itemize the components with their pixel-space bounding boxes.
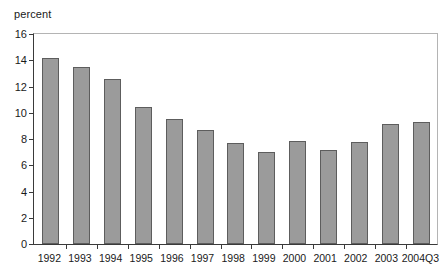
x-tick-mark: [313, 244, 314, 249]
bar: [382, 124, 399, 244]
bar: [413, 122, 430, 244]
bar-slot: [97, 34, 128, 244]
x-tick-label: 1996: [157, 252, 188, 264]
bar-slot: [221, 34, 252, 244]
bar: [227, 143, 244, 244]
x-tick-label: 1998: [218, 252, 249, 264]
y-tick-mark: [29, 244, 34, 245]
bar-slot: [313, 34, 344, 244]
bar: [197, 130, 214, 244]
x-tick-mark: [406, 244, 407, 249]
x-tick-mark: [221, 244, 222, 249]
y-axis-title: percent: [14, 8, 51, 21]
x-tick-mark: [128, 244, 129, 249]
bar: [73, 67, 90, 244]
x-tick-mark: [344, 244, 345, 249]
x-axis-labels: 1992199319941995199619971998199920002001…: [34, 252, 439, 264]
bar: [104, 79, 121, 244]
x-tick-label: 2002: [340, 252, 371, 264]
x-tick-label: 1999: [248, 252, 279, 264]
y-tick-mark: [29, 165, 34, 166]
x-tick-label: 2001: [310, 252, 341, 264]
bar: [258, 152, 275, 244]
bars-container: [35, 34, 437, 244]
bar: [135, 107, 152, 244]
bar: [351, 142, 368, 244]
bar: [289, 141, 306, 244]
x-tick-label: 1992: [34, 252, 65, 264]
y-tick-mark: [29, 218, 34, 219]
y-tick-mark: [29, 87, 34, 88]
bar: [42, 58, 59, 244]
x-tick-mark: [375, 244, 376, 249]
bar-slot: [128, 34, 159, 244]
bar-slot: [35, 34, 66, 244]
bar-slot: [159, 34, 190, 244]
x-tick-label: 1997: [187, 252, 218, 264]
bar-slot: [406, 34, 437, 244]
x-tick-label: 1993: [65, 252, 96, 264]
x-tick-mark: [251, 244, 252, 249]
bar-slot: [190, 34, 221, 244]
x-tick-label: 2004Q3: [402, 252, 439, 264]
y-tick-mark: [29, 60, 34, 61]
x-tick-label: 2003: [371, 252, 402, 264]
bar-slot: [66, 34, 97, 244]
x-tick-mark: [282, 244, 283, 249]
bar-slot: [282, 34, 313, 244]
y-tick-mark: [29, 139, 34, 140]
x-tick-mark: [97, 244, 98, 249]
plot-area: 1614121086420: [33, 33, 438, 245]
bar: [320, 150, 337, 244]
bar-slot: [344, 34, 375, 244]
bar-slot: [251, 34, 282, 244]
y-tick-mark: [29, 113, 34, 114]
y-tick-mark: [29, 34, 34, 35]
bar-chart-figure: percent 1614121086420 199219931994199519…: [0, 0, 446, 278]
x-tick-label: 2000: [279, 252, 310, 264]
bar-slot: [375, 34, 406, 244]
y-tick-mark: [29, 192, 34, 193]
x-tick-mark: [159, 244, 160, 249]
x-tick-mark: [66, 244, 67, 249]
x-tick-label: 1994: [95, 252, 126, 264]
x-tick-mark: [190, 244, 191, 249]
bar: [166, 119, 183, 244]
x-tick-label: 1995: [126, 252, 157, 264]
